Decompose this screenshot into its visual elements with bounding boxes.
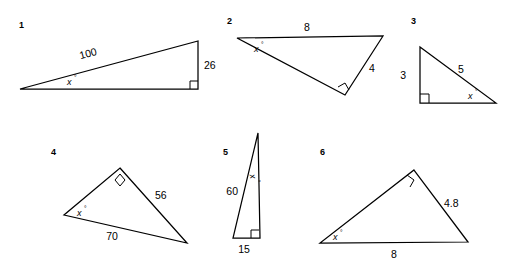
figure-5: 5 60 15 x ° [223, 133, 262, 255]
figure-4-angle-variable: x [76, 208, 82, 218]
figure-5-right-angle-marker [251, 230, 259, 238]
figure-5-side-label-bottom: 15 [238, 243, 250, 255]
figure-2-number: 2 [227, 16, 232, 26]
figure-2-right-angle-marker [338, 83, 349, 90]
figure-6-angle-variable: x [332, 232, 338, 242]
figure-6-number: 6 [320, 147, 325, 157]
figure-3-side-label-hypotenuse: 5 [458, 63, 464, 75]
figure-2-side-label-right: 4 [369, 62, 375, 74]
figure-5-angle-label: x ° [247, 171, 262, 184]
figure-1-triangle [20, 41, 198, 89]
figure-4-angle-label: x ° [76, 205, 87, 218]
figure-4-degree-symbol: ° [84, 205, 87, 212]
figure-4-triangle [64, 168, 187, 243]
figure-6-side-label-bottom: 8 [391, 248, 397, 260]
figure-2-angle-variable: x [253, 44, 259, 54]
figure-3-angle-variable: x [467, 91, 473, 101]
figure-5-side-label-hypotenuse: 60 [226, 185, 238, 197]
figures-svg: 1 100 26 x ° 2 8 4 x ° 3 [0, 0, 512, 280]
figure-6-angle-label: x ° [332, 229, 343, 242]
figure-3: 3 3 5 x ° [400, 16, 496, 103]
figure-4-number: 4 [51, 147, 56, 157]
figure-2-side-label-top: 8 [304, 21, 310, 33]
figure-2: 2 8 4 x ° [227, 16, 383, 95]
figure-6-degree-symbol: ° [340, 229, 343, 236]
figure-4: 4 56 70 x ° [51, 147, 187, 243]
figure-3-side-label-vertical: 3 [400, 69, 406, 81]
figure-4-side-label-right: 56 [155, 189, 167, 201]
figure-4-side-label-bottom: 70 [106, 230, 118, 242]
figure-3-number: 3 [411, 16, 416, 26]
figure-6: 6 4.8 8 x ° [320, 147, 468, 260]
figure-1-side-label-hypotenuse: 100 [78, 45, 98, 61]
figure-5-number: 5 [223, 147, 228, 157]
figure-3-triangle [420, 47, 496, 103]
figure-1-side-label-vertical: 26 [204, 59, 216, 71]
figure-6-side-label-right: 4.8 [444, 197, 459, 209]
figure-4-right-angle-marker [115, 174, 125, 186]
figure-3-right-angle-marker [420, 94, 429, 103]
figure-1-degree-symbol: ° [74, 74, 77, 81]
figure-2-degree-symbol: ° [261, 41, 264, 48]
figure-1-right-angle-marker [190, 81, 198, 89]
figure-3-degree-symbol: ° [475, 88, 478, 95]
figure-6-right-angle-marker [407, 175, 414, 187]
worksheet-canvas: 1 100 26 x ° 2 8 4 x ° 3 [0, 0, 512, 280]
figure-1: 1 100 26 x ° [19, 20, 216, 89]
figure-1-number: 1 [19, 20, 24, 30]
figure-3-angle-label: x ° [467, 88, 478, 101]
figure-2-triangle [237, 36, 383, 95]
figure-1-angle-variable: x [66, 77, 72, 87]
